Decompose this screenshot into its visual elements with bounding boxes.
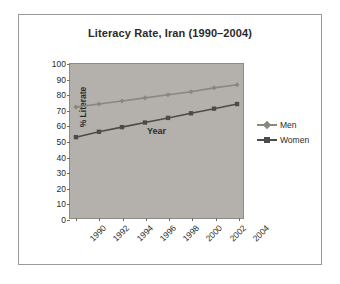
data-point-marker [211, 85, 216, 90]
data-point-marker [189, 111, 193, 115]
legend-label: Women [280, 135, 309, 145]
y-tick-label: 50 [57, 137, 66, 147]
x-tick-mark [123, 218, 124, 221]
x-tick-label: 1992 [111, 223, 131, 243]
y-tick-label: 80 [57, 90, 66, 100]
data-point-marker [212, 106, 216, 110]
y-tick-label: 60 [57, 121, 66, 131]
y-tick-label: 100 [52, 59, 66, 69]
x-tick-mark [216, 218, 217, 221]
x-tick-mark [192, 218, 193, 221]
x-axis-label: Year [70, 126, 243, 136]
y-tick-label: 10 [57, 199, 66, 209]
data-point-marker [166, 116, 170, 120]
x-tick-mark [146, 218, 147, 221]
y-tick-mark [67, 220, 70, 221]
legend-item-women[interactable]: Women [257, 133, 321, 146]
data-point-marker [188, 89, 193, 94]
y-tick-label: 70 [57, 106, 66, 116]
x-tick-label: 2000 [204, 223, 224, 243]
plot-area: % Literate 0102030405060708090100 199019… [69, 63, 244, 219]
data-point-marker [142, 95, 147, 100]
x-tick-label: 1998 [181, 223, 201, 243]
x-tick-label: 2004 [251, 223, 271, 243]
x-tick-mark [239, 218, 240, 221]
data-point-marker [96, 101, 101, 106]
y-tick-label: 20 [57, 184, 66, 194]
chart-title: Literacy Rate, Iran (1990–2004) [19, 27, 321, 39]
legend-label: Men [280, 120, 297, 130]
chart-legend: MenWomen [257, 118, 321, 148]
data-point-marker [73, 105, 78, 110]
data-point-marker [235, 102, 239, 106]
x-tick-label: 1996 [157, 223, 177, 243]
series-men [73, 82, 239, 109]
x-tick-label: 1990 [88, 223, 108, 243]
chart-figure: Literacy Rate, Iran (1990–2004) % Litera… [18, 14, 322, 265]
series-plot [70, 64, 243, 218]
legend-swatch-icon [257, 135, 277, 144]
x-tick-mark [76, 218, 77, 221]
x-tick-label: 1994 [134, 223, 154, 243]
x-tick-label: 2002 [227, 223, 247, 243]
y-tick-label: 90 [57, 75, 66, 85]
data-point-marker [165, 92, 170, 97]
y-tick-label: 0 [61, 215, 66, 225]
x-tick-mark [169, 218, 170, 221]
x-tick-mark [99, 218, 100, 221]
data-point-marker [143, 120, 147, 124]
y-tick-label: 40 [57, 153, 66, 163]
legend-swatch-icon [257, 120, 277, 129]
data-point-marker [119, 98, 124, 103]
y-tick-label: 30 [57, 168, 66, 178]
legend-item-men[interactable]: Men [257, 118, 321, 131]
data-point-marker [234, 82, 239, 87]
